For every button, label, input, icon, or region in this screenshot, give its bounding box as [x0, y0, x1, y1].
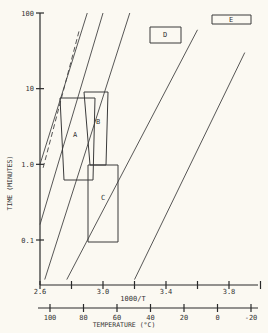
- line-1-dashed: [43, 30, 79, 168]
- temperature-tick-label: -20: [245, 314, 258, 322]
- line-2: [40, 13, 103, 225]
- region-a-label: A: [73, 131, 78, 139]
- y-axis-label: TIME (MINUTES): [6, 156, 14, 211]
- y-tick-label: 10: [26, 85, 34, 93]
- y-tick-label: 1.0: [21, 161, 34, 169]
- temperature-axis-label: TEMPERATURE (°C): [93, 321, 156, 329]
- line-5: [135, 53, 245, 280]
- x-axis-label: 1000/T: [120, 295, 146, 303]
- region-b-box: [84, 92, 108, 165]
- x-tick-label: 3.8: [223, 288, 236, 296]
- y-tick-label: 0.1: [21, 237, 34, 245]
- region-c-label: C: [101, 194, 105, 202]
- temperature-tick-label: 80: [79, 314, 87, 322]
- temperature-tick-label: 100: [44, 314, 57, 322]
- chart: 100101.00.1 2.63.03.43.8 100806040200-20…: [0, 0, 268, 333]
- temperature-tick-label: 20: [180, 314, 188, 322]
- temperature-tick-label: 0: [215, 314, 219, 322]
- y-tick-label: 100: [21, 10, 34, 18]
- x-tick-label: 3.4: [160, 288, 173, 296]
- x-tick-label: 3.0: [97, 288, 110, 296]
- region-b-label: B: [96, 118, 100, 126]
- x-tick-label: 2.6: [34, 288, 47, 296]
- region-e-label: E: [229, 16, 233, 24]
- region-d-label: D: [163, 31, 167, 39]
